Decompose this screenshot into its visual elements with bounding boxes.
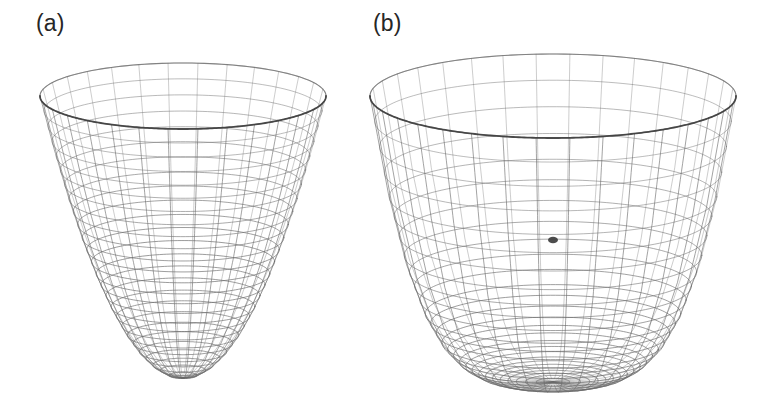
panel-a-surface-plot (0, 0, 364, 402)
figure-container: (a) (b) (0, 0, 764, 402)
panel-b-surface-plot (364, 0, 764, 402)
panel-a: (a) (0, 0, 364, 402)
panel-b: (b) (364, 0, 764, 402)
